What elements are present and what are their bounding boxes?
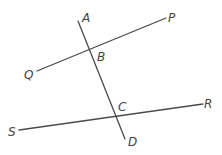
label-s: S bbox=[8, 125, 16, 139]
geometry-diagram: A B C D P Q R S bbox=[0, 0, 222, 155]
label-a: A bbox=[81, 11, 90, 25]
label-b: B bbox=[97, 50, 105, 64]
label-r: R bbox=[204, 97, 212, 111]
line-sr bbox=[19, 104, 203, 130]
label-q: Q bbox=[24, 68, 33, 82]
label-d: D bbox=[128, 135, 137, 149]
label-c: C bbox=[118, 100, 127, 114]
label-p: P bbox=[168, 11, 176, 25]
